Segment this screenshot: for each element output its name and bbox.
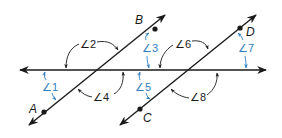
point-a-label: A [28, 102, 37, 116]
angle-7-arc-up [238, 33, 243, 40]
parallel-lines-transversal-diagram: A B C D ∠2 ∠1 ∠4 ∠3 ∠6 ∠5 ∠8 ∠7 [0, 0, 282, 138]
angle-7-label: ∠7 [238, 42, 254, 54]
angle-4-arc-left [78, 89, 92, 97]
angle-8-arc-left [171, 89, 189, 98]
point-d-label: D [246, 25, 255, 39]
angle-4-arc-right [114, 72, 123, 94]
point-c-label: C [143, 111, 152, 125]
point-b-dot [152, 26, 157, 31]
angle-1-arc-up [44, 72, 46, 80]
angle-2-arc [97, 41, 118, 50]
angle-6-arc-left [160, 45, 173, 68]
angle-5-label: ∠5 [135, 81, 151, 93]
angle-1-label: ∠1 [42, 81, 58, 93]
angle-8-label: ∠8 [190, 91, 206, 103]
point-c-dot [137, 106, 142, 111]
angle-4-label: ∠4 [93, 91, 109, 103]
angle-3-arc-down [147, 56, 149, 68]
angle-7-arc-down [245, 56, 246, 68]
point-a-dot [41, 109, 46, 114]
angle-5-arc-down [146, 93, 150, 99]
point-b-label: B [135, 13, 143, 27]
angle-2-arc-left [66, 44, 79, 68]
angle-6-label: ∠6 [175, 38, 191, 50]
point-d-dot [237, 25, 242, 30]
angle-5-arc-up [139, 72, 140, 80]
angle-6-arc-right [192, 41, 208, 49]
angle-1-arc-down [52, 93, 56, 100]
angle-2-label: ∠2 [80, 38, 96, 50]
angle-3-arc-up [146, 33, 149, 40]
angle-3-label: ∠3 [142, 42, 158, 54]
angle-8-arc-right [207, 73, 217, 95]
